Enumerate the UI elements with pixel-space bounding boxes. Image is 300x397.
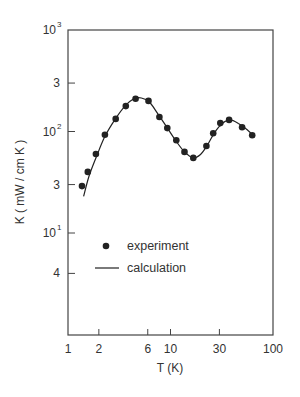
y-tick-label: 4 [53, 266, 60, 280]
experiment-point [173, 137, 180, 144]
experiment-point [190, 155, 197, 162]
experiment-point [203, 143, 210, 150]
experiment-point [145, 98, 152, 105]
x-axis-ticks: 1261030100 [65, 329, 284, 356]
x-tick-label: 6 [144, 342, 151, 356]
y-tick-exponent: 2 [57, 122, 62, 131]
calculation-line [84, 98, 255, 197]
y-axis-title: K ( mW / cm K ) [13, 140, 27, 225]
x-tick-label: 30 [213, 342, 227, 356]
thermal-conductivity-chart: 1261030100 103310231014 T (K) K ( mW / c… [0, 0, 300, 397]
experiment-point [217, 120, 224, 127]
plot-frame [68, 30, 273, 335]
y-tick-label: 3 [53, 178, 60, 192]
y-tick-label: 3 [53, 76, 60, 90]
legend: experiment calculation [95, 239, 189, 275]
y-tick-label: 10 [43, 23, 57, 37]
y-tick-label: 10 [43, 226, 57, 240]
y-tick-label: 10 [43, 125, 57, 139]
experiment-point [132, 96, 139, 103]
calculation-curve [84, 98, 255, 197]
experiment-point [181, 149, 188, 156]
experiment-points [79, 96, 256, 190]
x-axis-title: T (K) [157, 361, 183, 375]
legend-label-experiment: experiment [127, 239, 189, 253]
experiment-point [210, 130, 217, 137]
experiment-point [112, 116, 119, 123]
legend-label-calculation: calculation [127, 261, 186, 275]
experiment-point [156, 114, 163, 121]
x-tick-label: 100 [263, 342, 283, 356]
experiment-point [239, 124, 246, 131]
x-tick-label: 10 [164, 342, 178, 356]
experiment-point [226, 117, 233, 124]
experiment-point [79, 183, 86, 190]
y-tick-exponent: 3 [57, 20, 62, 29]
experiment-point [102, 131, 109, 138]
x-tick-label: 1 [65, 342, 72, 356]
experiment-point [85, 169, 92, 176]
experiment-point [164, 125, 171, 132]
legend-dot-icon [103, 243, 110, 250]
y-axis-ticks: 103310231014 [43, 20, 75, 280]
x-tick-label: 2 [96, 342, 103, 356]
experiment-point [249, 132, 256, 139]
y-tick-exponent: 1 [57, 223, 62, 232]
experiment-point [123, 103, 130, 110]
experiment-point [93, 151, 100, 158]
